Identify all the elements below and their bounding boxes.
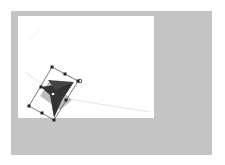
resize-handle[interactable] (53, 119, 56, 122)
resize-handle[interactable] (65, 99, 68, 102)
selection-overlay (0, 0, 225, 165)
center-point (52, 93, 55, 96)
guide-line (62, 98, 150, 112)
resize-handle[interactable] (28, 105, 31, 108)
resize-handle[interactable] (41, 112, 44, 115)
guide-line (30, 30, 40, 40)
resize-handle[interactable] (64, 73, 67, 76)
resize-handle[interactable] (51, 66, 54, 69)
resize-handle[interactable] (40, 86, 43, 89)
